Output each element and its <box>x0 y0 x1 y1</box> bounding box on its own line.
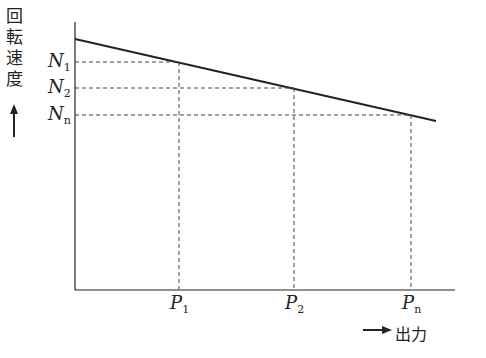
x-tick-p2: P2 <box>285 292 304 316</box>
up-arrow-icon <box>10 104 18 137</box>
x-tick-pn: Pn <box>402 292 421 316</box>
dashed-guides <box>75 62 411 290</box>
y-label-char: 転 <box>3 27 25 48</box>
y-axis-label: 回 転 速 度 <box>3 6 25 90</box>
y-label-char: 度 <box>3 69 25 90</box>
y-tick-n1: N1 <box>48 50 71 74</box>
x-axis-label: 出力 <box>395 321 427 345</box>
y-label-char: 回 <box>3 6 25 27</box>
y-tick-nn: Nn <box>48 103 71 127</box>
y-label-char: 速 <box>3 48 25 69</box>
y-tick-n2: N2 <box>48 76 71 100</box>
speed-output-line <box>75 39 436 121</box>
right-arrow-icon <box>363 326 392 334</box>
x-tick-p1: P1 <box>170 292 189 316</box>
